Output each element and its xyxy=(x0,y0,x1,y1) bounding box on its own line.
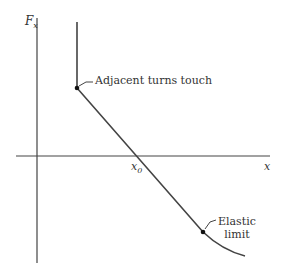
elastic-limit-point xyxy=(201,230,206,235)
x0-label: x0 xyxy=(131,160,142,175)
elastic-limit-label: Elastic limit xyxy=(218,215,256,241)
y-axis-label: Fx xyxy=(25,14,38,30)
elastic-leader xyxy=(205,220,216,229)
force-extension-diagram: Fx x x0 Adjacent turns touch Elastic lim… xyxy=(0,0,283,275)
adjacent-turns-point xyxy=(75,86,80,91)
adjacent-turns-touch-label: Adjacent turns touch xyxy=(95,74,212,87)
x-axis-label: x xyxy=(264,160,270,173)
touch-leader xyxy=(79,82,93,86)
